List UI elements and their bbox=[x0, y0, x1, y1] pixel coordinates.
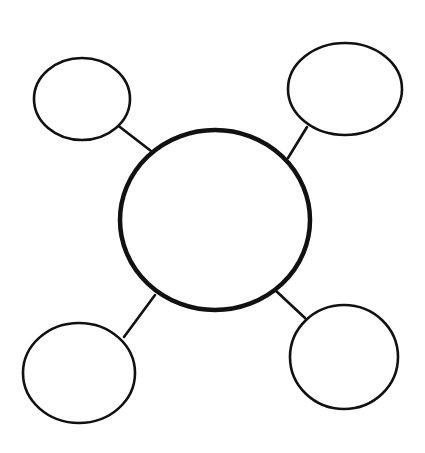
node-center-shape bbox=[120, 130, 310, 310]
connector-bottom-right-to-center bbox=[275, 290, 305, 318]
node-top-right-shape bbox=[288, 43, 402, 135]
node-bottom-right-shape bbox=[290, 305, 398, 409]
bubble-map-diagram bbox=[0, 0, 425, 453]
connector-top-left-to-center bbox=[116, 124, 151, 151]
connector-bottom-left-to-center bbox=[124, 295, 155, 337]
node-top-left bbox=[34, 58, 130, 140]
connector-top-right-to-center bbox=[288, 127, 307, 158]
node-top-right bbox=[288, 43, 402, 135]
node-top-left-shape bbox=[34, 58, 130, 140]
node-center bbox=[120, 130, 310, 310]
diagram-svg bbox=[0, 0, 425, 453]
node-bottom-left bbox=[23, 323, 135, 423]
nodes-group bbox=[23, 43, 402, 423]
node-bottom-left-shape bbox=[23, 323, 135, 423]
node-bottom-right bbox=[290, 305, 398, 409]
